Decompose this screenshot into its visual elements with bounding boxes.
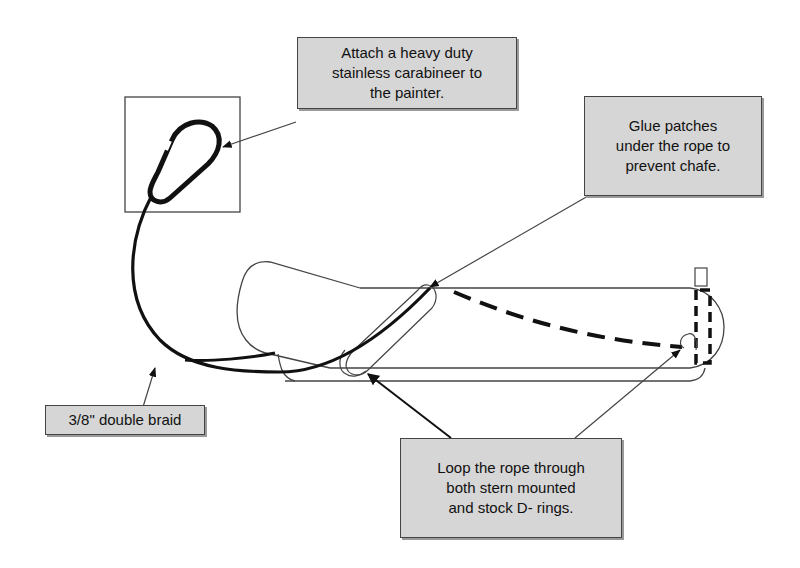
- carabiner-icon: [150, 122, 219, 202]
- callout-text: under the rope to: [616, 136, 730, 156]
- painter-rope-strand: [185, 353, 275, 361]
- callout-text: Attach a heavy duty: [341, 43, 473, 63]
- callout-text: the painter.: [370, 83, 444, 103]
- callout-glue-patches: Glue patches under the rope to prevent c…: [584, 96, 762, 196]
- callout-text: Loop the rope through: [437, 458, 585, 478]
- arrow-glue-patch: [430, 196, 588, 287]
- arrow-d-ring-stern: [575, 350, 680, 438]
- d-ring-stern: [681, 268, 710, 363]
- callout-loop: Loop the rope through both stern mounted…: [400, 438, 622, 538]
- rope-dashed-internal: [454, 292, 682, 347]
- callout-text: stainless carabineer to: [332, 63, 482, 83]
- callout-text: and stock D- rings.: [448, 498, 573, 518]
- carabiner-inset-box: [125, 97, 240, 212]
- callout-text: both stern mounted: [446, 478, 575, 498]
- arrow-carabiner: [223, 122, 296, 147]
- arrow-d-ring-stock: [368, 374, 451, 438]
- kayak-hull: [237, 262, 724, 381]
- callout-text: 3/8" double braid: [69, 410, 182, 430]
- painter-rope: [133, 195, 430, 372]
- callout-carabiner: Attach a heavy duty stainless carabineer…: [297, 37, 517, 109]
- callout-rope: 3/8" double braid: [45, 405, 205, 435]
- callout-text: Glue patches: [629, 116, 717, 136]
- arrow-rope: [143, 368, 155, 407]
- callout-text: prevent chafe.: [625, 156, 720, 176]
